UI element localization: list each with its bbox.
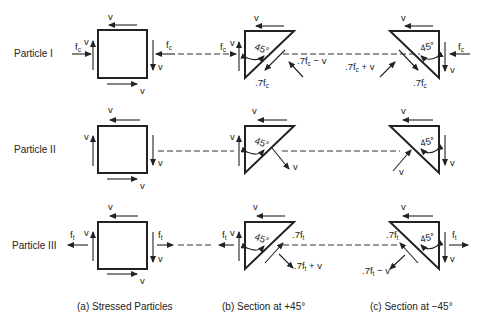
row-particle-2: Particle II v v v v v v 45° v v v 45° v xyxy=(14,104,455,191)
angle-label: 45° xyxy=(253,135,270,150)
angle-label: 45° xyxy=(253,231,270,246)
shear-label-bottom: v xyxy=(140,85,145,96)
row-particle-3: Particle III v v v v ft ft ft v v 45° .7… xyxy=(12,201,468,286)
row-particle-1: Particle I v v v v fc fc v v fc 45° .7fc… xyxy=(14,11,470,96)
shear-label-right: v xyxy=(450,157,455,168)
stress-label-right: fc xyxy=(458,41,465,53)
shear-label-diagonal: v xyxy=(293,161,298,172)
resultant-arrow xyxy=(390,255,405,269)
stress-label-left: fc xyxy=(220,41,227,53)
stress-label-right: fc xyxy=(166,39,173,51)
stress-diagram: Particle I v v v v fc fc v v fc 45° .7fc… xyxy=(0,0,483,323)
resultant-label: .7fc + v xyxy=(345,61,375,73)
shear-label-bottom: v xyxy=(140,275,145,286)
shear-label-top: v xyxy=(401,105,406,116)
angle-label: 45° xyxy=(253,41,270,56)
stressed-particle-square xyxy=(98,126,147,173)
normal-force-label: .7fc xyxy=(255,77,270,89)
shear-label-left: v xyxy=(84,36,89,47)
shear-label-left: v xyxy=(230,131,235,142)
angle-label: 45° xyxy=(419,134,436,148)
stressed-particle-square xyxy=(98,30,147,78)
stress-label-left: ft xyxy=(222,229,227,241)
stress-label-left: ft xyxy=(70,229,75,241)
shear-label-top: v xyxy=(253,201,258,212)
angle-label: 45° xyxy=(419,230,436,244)
stress-label-left: fc xyxy=(75,41,82,53)
shear-label-top: v xyxy=(254,12,259,23)
stress-label-right: ft xyxy=(158,229,163,241)
shear-label-top: v xyxy=(108,104,113,115)
resultant-arrow xyxy=(380,62,395,77)
resultant-label: .7fc − v xyxy=(297,55,327,67)
angle-arc xyxy=(247,150,264,154)
angle-arc xyxy=(247,246,264,250)
angle-arc xyxy=(421,245,437,249)
shear-label-left: v xyxy=(84,131,89,142)
row-label-particle-2: Particle II xyxy=(14,144,56,155)
shear-label-bottom: v xyxy=(140,180,145,191)
stress-label-right: ft xyxy=(452,229,457,241)
shear-label-left: v xyxy=(84,227,89,238)
resultant-label: .7ft + v xyxy=(294,260,322,272)
shear-label-right: v xyxy=(450,253,455,264)
shear-label-right: v xyxy=(158,253,163,264)
caption-section-plus-45: (b) Section at +45° xyxy=(222,301,305,312)
shear-label-top: v xyxy=(252,105,257,116)
resultant-label: .7ft − v xyxy=(362,265,390,277)
shear-label-left: v xyxy=(230,227,235,238)
caption-section-minus-45: (c) Section at −45° xyxy=(370,301,453,312)
shear-label-diagonal: v xyxy=(399,166,404,177)
shear-label-right: v xyxy=(158,157,163,168)
normal-force-arrow xyxy=(399,50,418,70)
angle-arc xyxy=(421,56,437,59)
shear-label-right: v xyxy=(450,64,455,75)
section-minus-45-triangle xyxy=(390,31,439,78)
shear-label-top: v xyxy=(401,201,406,212)
caption-stressed-particles: (a) Stressed Particles xyxy=(77,301,173,312)
shear-label-top: v xyxy=(108,201,113,212)
shear-label-right: v xyxy=(158,61,163,72)
stressed-particle-square xyxy=(98,222,147,269)
resultant-arrow xyxy=(279,254,293,268)
shear-label-top: v xyxy=(108,11,113,22)
row-label-particle-3: Particle III xyxy=(12,240,56,251)
normal-force-label: .7ft xyxy=(292,229,305,241)
row-label-particle-1: Particle I xyxy=(14,48,53,59)
angle-arc xyxy=(421,149,437,153)
shear-label-left: v xyxy=(230,37,235,48)
angle-arc xyxy=(247,56,264,60)
normal-force-label: .7ft xyxy=(386,229,399,241)
shear-label-top: v xyxy=(401,12,406,23)
normal-force-label: .7fc xyxy=(413,77,428,89)
angle-label: 45° xyxy=(419,39,436,53)
